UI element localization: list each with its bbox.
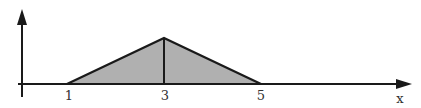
x-axis-label: x	[396, 91, 404, 106]
tick-label-1: 1	[65, 88, 73, 103]
tick-label-5: 5	[257, 88, 265, 103]
tick-label-3: 3	[161, 88, 169, 103]
x-axis-arrowhead-icon	[396, 79, 412, 89]
y-axis-arrowhead-icon	[17, 9, 27, 25]
triangle-distribution-diagram: 1 3 5 x	[0, 0, 421, 108]
